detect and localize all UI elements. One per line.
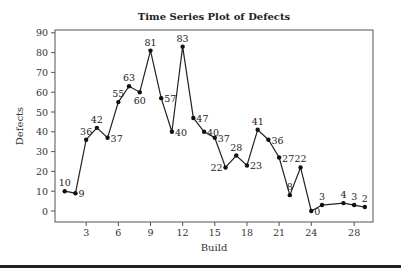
x-axis-label: Build: [201, 242, 228, 253]
x-tick-label: 6: [115, 227, 121, 238]
data-point: [84, 138, 88, 142]
data-point: [288, 193, 292, 197]
y-tick-label: 30: [36, 146, 48, 157]
data-point: [63, 189, 67, 193]
data-label: 63: [123, 72, 135, 83]
data-label: 37: [111, 133, 123, 144]
y-tick-label: 20: [36, 166, 48, 177]
data-point: [138, 90, 142, 94]
y-tick-label: 0: [42, 206, 48, 217]
x-tick-label: 24: [305, 227, 317, 238]
x-tick-label: 3: [83, 227, 89, 238]
y-tick-label: 50: [36, 107, 48, 118]
data-label: 2: [362, 193, 368, 204]
data-points: 1093642375563608157408347403722282341362…: [59, 33, 368, 217]
data-point: [148, 48, 152, 52]
data-label: 55: [112, 88, 124, 99]
x-tick-label: 28: [348, 227, 360, 238]
data-point: [320, 203, 324, 207]
data-label: 22: [210, 162, 222, 173]
chart-title: Time Series Plot of Defects: [138, 11, 291, 22]
data-point: [255, 128, 259, 132]
y-tick-label: 60: [36, 87, 48, 98]
time-series-chart: Time Series Plot of Defects 010203040506…: [0, 0, 401, 274]
data-label: 8: [287, 181, 293, 192]
data-point: [363, 205, 367, 209]
y-axis-label: Defects: [14, 107, 25, 145]
x-tick-label: 18: [241, 227, 253, 238]
data-label: 3: [319, 191, 325, 202]
data-label: 27: [282, 153, 294, 164]
data-point: [341, 201, 345, 205]
data-point: [309, 209, 313, 213]
data-label: 36: [271, 135, 283, 146]
data-label: 28: [230, 142, 242, 153]
data-label: 23: [250, 160, 262, 171]
data-point: [223, 165, 227, 169]
data-label: 41: [252, 116, 264, 127]
x-tick-label: 12: [177, 227, 189, 238]
data-label: 3: [351, 191, 357, 202]
data-point: [202, 130, 206, 134]
y-axis: 0102030405060708090: [36, 27, 55, 216]
data-point: [213, 136, 217, 140]
data-point: [180, 44, 184, 48]
y-tick-label: 40: [36, 126, 48, 137]
y-tick-label: 90: [36, 27, 48, 38]
data-label: 37: [218, 133, 230, 144]
data-point: [352, 203, 356, 207]
y-tick-label: 10: [36, 186, 48, 197]
data-point: [266, 138, 270, 142]
y-tick-label: 80: [36, 47, 48, 58]
x-tick-label: 15: [209, 227, 221, 238]
data-point: [234, 153, 238, 157]
data-label: 22: [295, 153, 307, 164]
x-tick-label: 21: [273, 227, 285, 238]
x-tick-label: 9: [147, 227, 153, 238]
data-point: [245, 163, 249, 167]
x-axis: 369121518212428: [83, 222, 360, 238]
data-label: 36: [80, 126, 92, 137]
data-point: [105, 136, 109, 140]
data-label: 81: [144, 37, 156, 48]
data-point: [170, 130, 174, 134]
y-tick-label: 70: [36, 67, 48, 78]
data-point: [277, 155, 281, 159]
data-label: 57: [164, 93, 176, 104]
data-label: 0: [314, 206, 320, 217]
data-label: 83: [177, 33, 189, 44]
data-label: 47: [196, 113, 208, 124]
data-label: 42: [91, 114, 103, 125]
data-label: 60: [134, 95, 146, 106]
data-point: [127, 84, 131, 88]
data-point: [95, 126, 99, 130]
data-point: [159, 96, 163, 100]
data-point: [116, 100, 120, 104]
data-label: 10: [59, 177, 71, 188]
data-point: [73, 191, 77, 195]
data-label: 9: [78, 188, 84, 199]
data-label: 40: [175, 127, 187, 138]
bottom-divider: [0, 265, 401, 268]
data-point: [298, 165, 302, 169]
data-label: 4: [340, 189, 346, 200]
data-point: [191, 116, 195, 120]
